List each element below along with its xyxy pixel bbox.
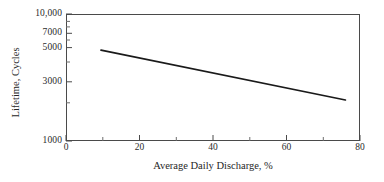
chart-figure: 10,000 7000 5000 3000 1000 0 20 40 60 80 <box>0 0 384 182</box>
plot-canvas <box>0 0 384 182</box>
x-axis-major-ticks <box>66 135 360 141</box>
y-axis-title: Lifetime, Cycles <box>10 28 21 138</box>
data-series-line <box>101 50 345 100</box>
y-axis-major-ticks <box>66 14 72 141</box>
x-axis-title: Average Daily Discharge, % <box>66 160 360 171</box>
